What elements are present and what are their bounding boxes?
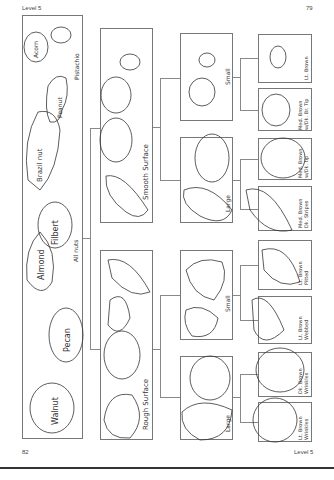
connector-smooth-vertical: [160, 78, 161, 180]
box-lt-brown-wrinkles: [258, 402, 312, 442]
connector-rough-large-vertical: [240, 374, 241, 422]
box-rough-surface: [100, 250, 153, 440]
connector-to-med-brown-stripes: [240, 209, 258, 210]
box-lt-brown-webbed: [258, 296, 312, 344]
connector-rough-small-vertical: [240, 265, 241, 320]
connector-to-smooth: [90, 128, 100, 129]
box-med-brown-dk-tip: [258, 138, 312, 180]
header-level-label: Level 5: [22, 5, 41, 11]
box-dk-brown-wrinkles: [258, 352, 312, 397]
connector-to-lt-brown-pitted: [240, 265, 258, 266]
connector-to-lt-brown-webbed: [240, 320, 258, 321]
connector-to-rough-small: [160, 295, 180, 296]
connector-rough-vertical: [160, 295, 161, 398]
connector-to-lt-brown-wrinkles: [240, 422, 258, 423]
box-smooth-small: [180, 33, 233, 121]
connector-smooth-small-vertical: [240, 58, 241, 110]
connector-to-med-brown-tip: [240, 110, 258, 111]
box-smooth-surface: [100, 28, 153, 223]
connector-to-dk-brown-wrinkles: [240, 374, 258, 375]
connector-root-vertical: [90, 128, 91, 350]
connector-to-smooth-large: [160, 180, 180, 181]
box-rough-large: [180, 356, 233, 440]
page-divider: [0, 467, 334, 469]
connector-to-med-brown-dk-tip: [240, 159, 258, 160]
header-page-number: 79: [306, 5, 313, 11]
connector-smooth-large-vertical: [240, 159, 241, 209]
box-lt-brown: [258, 34, 312, 83]
box-med-brown-dk-br-tip: [258, 88, 312, 131]
box-smooth-large: [180, 137, 233, 223]
connector-to-smooth-small: [160, 78, 180, 79]
connector-to-rough-large: [160, 397, 180, 398]
box-rough-small: [180, 250, 233, 340]
footer-page-number: 82: [22, 449, 29, 455]
connector-to-lt-brown: [240, 58, 258, 59]
footer-level-label: Level 5: [294, 449, 313, 455]
connector-to-rough: [90, 349, 100, 350]
box-lt-brown-pitted: [258, 240, 312, 290]
root-box-all-nuts: [22, 15, 83, 439]
box-med-brown-dk-stripes: [258, 186, 312, 231]
